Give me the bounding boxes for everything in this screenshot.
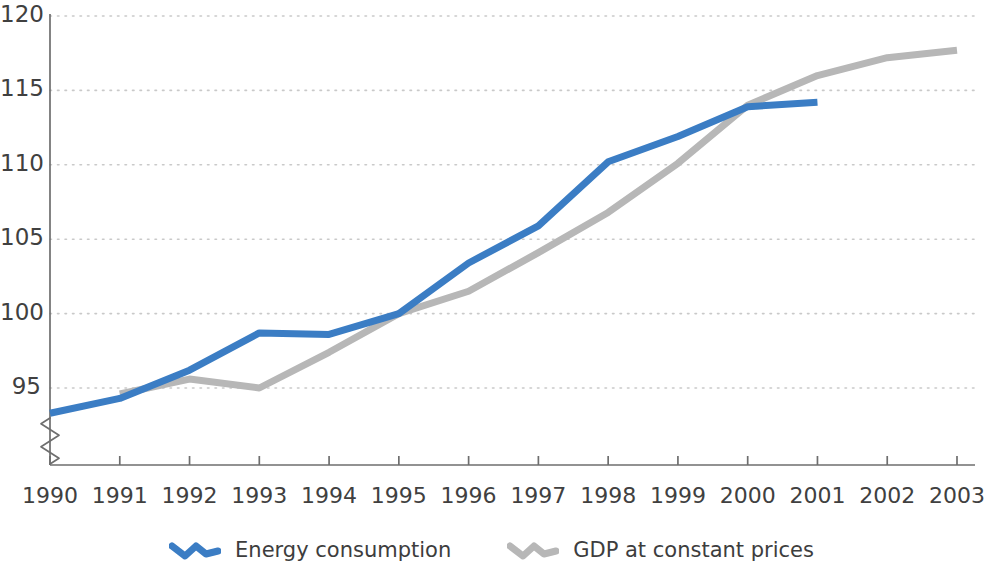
legend-item-energy-consumption[interactable]: Energy consumption bbox=[169, 537, 451, 563]
legend-item-gdp-at-constant-prices[interactable]: GDP at constant prices bbox=[507, 537, 814, 563]
legend-label-gdp-at-constant-prices: GDP at constant prices bbox=[573, 538, 814, 562]
data-series-lines bbox=[50, 50, 957, 413]
y-tick-label: 100 bbox=[0, 299, 41, 325]
x-tick-marks bbox=[50, 456, 957, 465]
y-tick-label: 120 bbox=[0, 1, 41, 27]
series-line bbox=[50, 102, 817, 413]
zigzag-line-icon bbox=[507, 537, 559, 563]
zigzag-line-icon bbox=[169, 537, 221, 563]
y-tick-label: 95 bbox=[0, 373, 41, 399]
y-tick-label: 110 bbox=[0, 150, 41, 176]
y-tick-label: 115 bbox=[0, 75, 41, 101]
chart-legend: Energy consumption GDP at constant price… bbox=[0, 528, 983, 571]
legend-label-energy-consumption: Energy consumption bbox=[235, 538, 451, 562]
y-tick-label: 105 bbox=[0, 224, 41, 250]
x-tick-label: 2003 bbox=[912, 483, 988, 508]
